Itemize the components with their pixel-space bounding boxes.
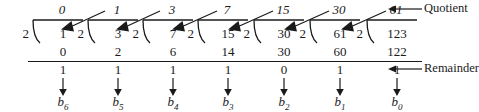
divisor-value: 2 — [180, 26, 194, 42]
quotient-value: 61 — [374, 2, 418, 18]
dividend-value: 123 — [375, 26, 419, 42]
divisor-value: 2 — [15, 26, 29, 42]
divisor-value: 2 — [292, 26, 306, 42]
divisor-value: 2 — [349, 26, 363, 42]
remainder-value: 1 — [375, 62, 419, 78]
bit-index: 0 — [398, 102, 403, 112]
quotient-annotation-label: Quotient — [424, 1, 468, 16]
division-column: 61 2 123 122 1 b0 — [334, 0, 444, 112]
bit-label: b0 — [375, 94, 419, 112]
divisor-value: 2 — [70, 26, 84, 42]
long-division-diagram: 0 2 1 0 1 b6 1 2 3 2 1 b5 3 — [0, 0, 479, 112]
divisor-value: 2 — [236, 26, 250, 42]
divisor-value: 2 — [125, 26, 139, 42]
remainder-annotation-label: Remainder — [424, 61, 479, 76]
product-value: 122 — [375, 44, 419, 60]
